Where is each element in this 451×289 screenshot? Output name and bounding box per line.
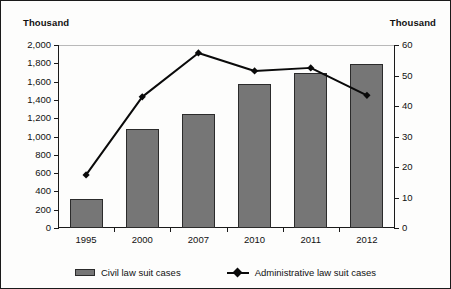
left-tick-label: 800: [35, 150, 51, 160]
right-tick-mark: [394, 228, 399, 229]
plot-area: 02004006008001,0001,2001,4001,6001,8002,…: [58, 45, 395, 228]
left-tick-label: 1,800: [27, 59, 51, 69]
line-diamond-swatch-icon: [227, 268, 249, 277]
right-tick-label: 40: [402, 101, 413, 111]
administrative-line-path: [86, 53, 367, 175]
chart-container: Thousand Thousand 02004006008001,0001,20…: [0, 0, 451, 289]
right-tick-label: 20: [402, 162, 413, 172]
line-marker-2011: [307, 64, 314, 71]
legend-item-civil[interactable]: Civil law suit cases: [75, 267, 181, 278]
left-tick-label: 1,200: [27, 113, 51, 123]
left-tick-label: 200: [35, 205, 51, 215]
x-tick-label: 2011: [301, 235, 321, 245]
legend-label-civil: Civil law suit cases: [101, 267, 181, 278]
left-tick-mark: [54, 228, 59, 229]
legend-item-administrative[interactable]: Administrative law suit cases: [227, 267, 376, 278]
x-tick-label: 2000: [132, 235, 153, 245]
left-tick-label: 1,000: [27, 132, 51, 142]
x-tick-label: 1995: [76, 235, 97, 245]
x-tick-label: 2012: [356, 235, 377, 245]
left-tick-label: 1,400: [27, 95, 51, 105]
left-axis-unit-label: Thousand: [23, 17, 69, 28]
left-tick-label: 2,000: [27, 40, 51, 50]
right-tick-label: 0: [402, 223, 407, 233]
legend-label-administrative: Administrative law suit cases: [255, 267, 376, 278]
left-tick-label: 1,600: [27, 77, 51, 87]
right-tick-label: 30: [402, 132, 413, 142]
bar-swatch-icon: [75, 269, 95, 276]
right-tick-label: 50: [402, 71, 413, 81]
chart-legend: Civil law suit cases Administrative law …: [1, 267, 450, 278]
x-tick-label: 2007: [188, 235, 209, 245]
x-tick-label: 2010: [244, 235, 265, 245]
left-tick-label: 400: [35, 187, 51, 197]
right-tick-label: 60: [402, 40, 413, 50]
left-tick-label: 600: [35, 168, 51, 178]
line-marker-2012: [363, 92, 370, 99]
line-marker-2010: [251, 67, 258, 74]
line-series-administrative-law-suit-cases: [58, 45, 395, 228]
left-tick-label: 0: [46, 223, 51, 233]
right-axis-unit-label: Thousand: [390, 17, 436, 28]
right-tick-label: 10: [402, 193, 413, 203]
